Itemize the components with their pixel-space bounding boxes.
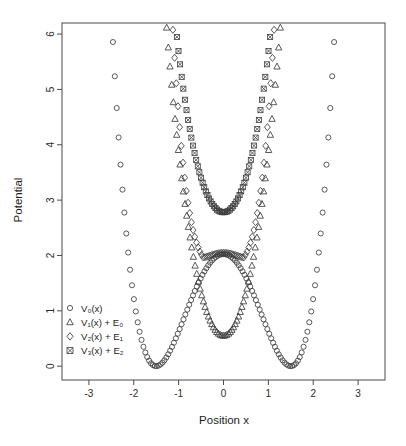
y-tick-label: 5 (45, 86, 56, 92)
x-axis-ticks: -3-2-10123 (84, 380, 361, 399)
x-tick-label: -1 (174, 388, 183, 399)
series-square-x (174, 34, 272, 214)
x-tick-label: 3 (355, 388, 361, 399)
y-tick-label: 1 (45, 308, 56, 314)
legend-item-label: V₁(x) + E₀ (81, 317, 123, 328)
series-diamond (170, 26, 277, 261)
x-axis-title: Position x (199, 414, 249, 426)
x-tick-label: 0 (221, 388, 227, 399)
legend-marker-circle-icon (67, 305, 72, 310)
chart-figure: -3-2-10123 0123456 Position x Potential … (0, 0, 406, 446)
legend-item[interactable]: V₁(x) + E₀ (67, 317, 123, 328)
y-tick-label: 6 (45, 31, 56, 37)
legend-item[interactable]: V₀(x) (67, 303, 102, 314)
legend-marker-square-x-icon (67, 348, 73, 354)
potential-scatter-plot: -3-2-10123 0123456 Position x Potential … (0, 0, 406, 446)
chart-legend: V₀(x)V₁(x) + E₀V₂(x) + E₁V₃(x) + E₂ (67, 303, 124, 357)
legend-marker-diamond-icon (67, 333, 73, 341)
series-circle (110, 39, 336, 368)
legend-item[interactable]: V₃(x) + E₂ (67, 345, 124, 356)
legend-item-label: V₃(x) + E₂ (81, 345, 124, 356)
legend-item[interactable]: V₂(x) + E₁ (67, 331, 123, 342)
data-series-layer (110, 24, 336, 369)
y-axis-ticks: 0123456 (45, 31, 62, 369)
x-tick-label: -3 (84, 388, 93, 399)
y-tick-label: 3 (45, 197, 56, 203)
y-tick-label: 0 (45, 363, 56, 369)
legend-marker-triangle-icon (67, 319, 73, 325)
series-triangle (163, 24, 283, 338)
legend-item-label: V₀(x) (81, 303, 103, 314)
y-tick-label: 2 (45, 252, 56, 258)
x-tick-label: 1 (266, 388, 272, 399)
y-axis-title: Potential (12, 178, 24, 223)
legend-item-label: V₂(x) + E₁ (81, 331, 123, 342)
y-tick-label: 4 (45, 142, 56, 148)
x-tick-label: -2 (129, 388, 138, 399)
x-tick-label: 2 (310, 388, 316, 399)
